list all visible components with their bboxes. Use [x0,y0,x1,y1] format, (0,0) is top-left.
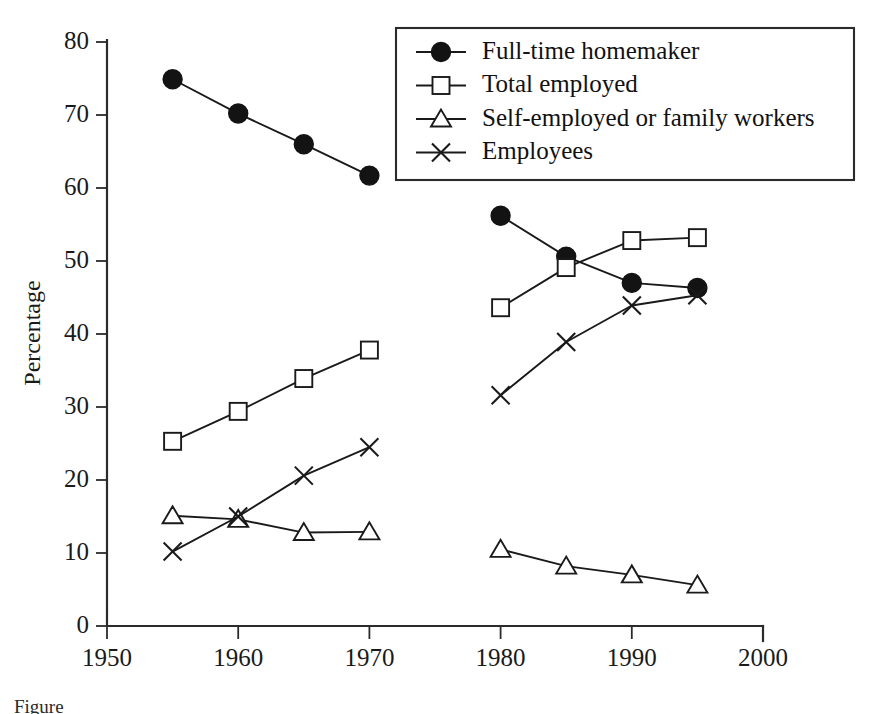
x-tick-label: 2000 [738,644,788,671]
series-2 [164,229,706,450]
data-point-marker [164,433,181,450]
data-point-marker [689,229,706,246]
series-4 [164,286,707,560]
x-tick-label: 1990 [607,644,657,671]
data-point-marker [492,299,509,316]
y-tick-label: 10 [64,538,89,565]
legend-item-label: Full-time homemaker [482,37,700,64]
y-tick-label: 30 [64,392,89,419]
y-tick-label: 60 [64,173,89,200]
series-polyline [173,350,370,441]
series-polyline [501,295,698,395]
data-point-marker [295,467,313,485]
data-point-marker [229,104,248,123]
series-polyline [173,79,370,175]
y-tick-label: 70 [64,100,89,127]
data-point-marker [623,297,641,315]
y-tick-label: 40 [64,319,89,346]
data-point-marker [492,386,510,404]
x-tick-label: 1970 [344,644,394,671]
x-tick-label: 1960 [213,644,263,671]
series-polyline [501,216,698,288]
series-polyline [173,447,370,551]
data-point-marker [360,438,378,456]
data-point-marker [294,135,313,154]
series-polyline [173,516,370,533]
data-point-marker [164,543,182,561]
legend-item-label: Self-employed or family workers [482,104,815,131]
data-point-marker [230,403,247,420]
figure-caption: Figure [14,696,64,714]
data-point-marker [557,333,575,351]
data-point-marker [491,540,511,557]
data-point-marker [361,342,378,359]
legend-item-label: Employees [482,137,593,164]
legend-marker-filled-circle [432,43,451,62]
y-tick-label: 0 [77,611,90,638]
series-polyline [501,549,698,585]
data-point-marker [360,166,379,185]
x-tick-label: 1950 [82,644,132,671]
data-point-marker [491,206,510,225]
series-polyline [501,238,698,308]
y-tick-label: 50 [64,246,89,273]
legend-item-label: Total employed [482,70,638,97]
data-point-marker [558,259,575,276]
data-point-marker [359,522,379,539]
legend-marker-open-square [433,77,450,94]
chart-legend: Full-time homemakerTotal employedSelf-em… [396,28,854,180]
x-tick-label: 1980 [476,644,526,671]
y-axis-title: Percentage [19,280,45,385]
data-point-marker [295,370,312,387]
x-tick-group: 195019601970198019902000 [82,613,788,671]
y-tick-group: 01020304050607080 [64,27,107,638]
data-point-marker [163,70,182,89]
y-tick-label: 20 [64,465,89,492]
y-tick-label: 80 [64,27,89,54]
data-point-marker [163,506,183,523]
series-3 [163,506,708,592]
data-point-marker [623,232,640,249]
data-point-marker [622,273,641,292]
